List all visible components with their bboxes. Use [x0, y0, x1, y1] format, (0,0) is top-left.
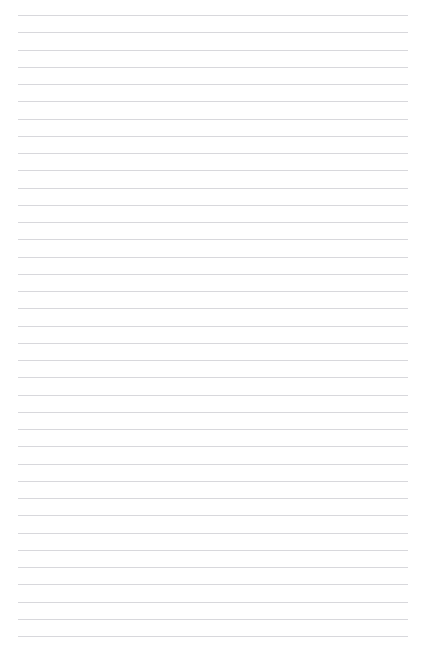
- notebook-page: [0, 0, 426, 651]
- writing-area[interactable]: [0, 0, 426, 651]
